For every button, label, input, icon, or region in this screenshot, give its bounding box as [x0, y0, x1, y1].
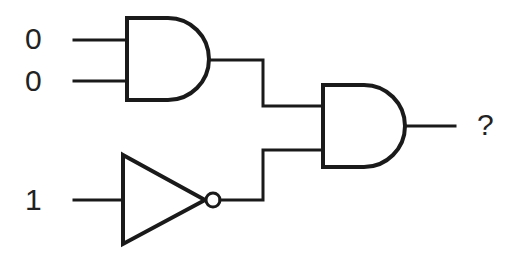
- not-gate-bubble-icon: [206, 193, 220, 207]
- and-gate-1-icon: [127, 18, 209, 100]
- and-gate-2-icon: [323, 85, 405, 167]
- wire-and1-to-and2: [209, 60, 322, 106]
- logic-circuit-canvas: [0, 0, 518, 265]
- input-label-c: 1: [25, 185, 42, 215]
- not-gate-icon: [123, 155, 205, 244]
- output-label: ?: [477, 110, 494, 140]
- wire-not-to-and2: [220, 150, 322, 200]
- input-label-b: 0: [25, 66, 42, 96]
- input-label-a: 0: [25, 24, 42, 54]
